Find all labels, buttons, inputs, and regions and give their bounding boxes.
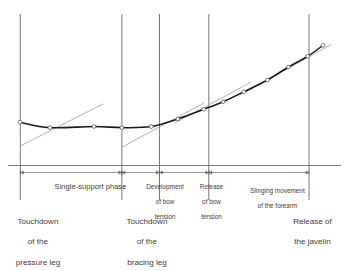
caption-line: pressure leg: [0, 258, 76, 268]
data-point-marker: [48, 126, 52, 130]
tangent-at-touchdown-bracing-leg: [122, 103, 205, 147]
phase-arrow-head-left: [160, 170, 163, 174]
event-caption-touchdown-of-the-pressure-leg: Touchdown of the pressure leg: [0, 207, 76, 271]
phase-arrow-development-of-bow-tension: [122, 170, 160, 174]
caption-line: of the: [109, 237, 185, 247]
phase-label-release-of-bow-tension: Release of bow tension: [185, 175, 238, 228]
caption-line: the javelin: [276, 237, 349, 247]
phase-arrow-group: [20, 170, 309, 174]
phase-arrow-head-right: [119, 170, 122, 174]
caption-line: Touchdown: [109, 217, 185, 227]
data-point-marker: [266, 78, 270, 82]
event-line-group: [20, 14, 309, 200]
tangent-line-group: [20, 44, 331, 147]
phase-arrow-head-right: [156, 170, 159, 174]
data-point-marker: [306, 54, 310, 58]
phase-arrow-head-left: [20, 170, 23, 174]
phase-arrow-head-left: [209, 170, 212, 174]
data-point-marker: [321, 44, 325, 48]
data-point-group: [18, 44, 325, 130]
phase-line: tension: [185, 213, 238, 221]
event-caption-touchdown-of-the-bracing-leg: Touchdown of the bracing leg: [109, 207, 185, 271]
data-point-marker: [221, 100, 225, 104]
phase-line: of bow: [185, 198, 238, 206]
phase-arrow-single-support-phase: [20, 170, 122, 174]
data-point-marker: [120, 126, 124, 130]
phase-line: Release: [185, 183, 238, 191]
caption-line: bracing leg: [109, 258, 185, 268]
phase-arrow-release-of-bow-tension: [160, 170, 209, 174]
data-point-marker: [287, 65, 291, 69]
phase-arrow-slinging-movement-of-the-forearm: [209, 170, 309, 174]
phase-arrow-head-left: [122, 170, 125, 174]
tangent-at-release-bow-tension: [175, 82, 252, 123]
data-point-marker: [176, 117, 180, 121]
phase-label-single-support-phase: Single-support phase: [36, 183, 145, 192]
caption-line: Release of: [276, 217, 349, 227]
phase-arrow-head-right: [205, 170, 208, 174]
phase-line: Slinging movement: [238, 187, 317, 195]
data-point-marker: [92, 125, 96, 129]
event-caption-release-of-the-javelin: Release of the javelin: [276, 207, 349, 258]
data-point-marker: [149, 125, 153, 129]
phase-line: Development: [145, 183, 185, 191]
caption-line: of the: [0, 237, 76, 247]
data-point-marker: [18, 120, 22, 124]
velocity-curve: [20, 45, 323, 127]
phase-line: of bow: [145, 198, 185, 206]
data-point-marker: [202, 107, 206, 111]
data-point-marker: [242, 90, 246, 94]
caption-line: Touchdown: [0, 217, 76, 227]
phase-arrow-head-right: [306, 170, 309, 174]
